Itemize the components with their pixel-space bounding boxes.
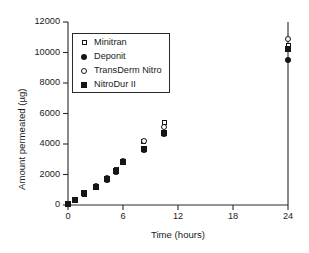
data-point xyxy=(113,168,119,174)
data-point xyxy=(65,201,71,207)
data-point xyxy=(141,138,147,144)
data-point xyxy=(104,176,110,182)
data-point xyxy=(285,36,291,42)
data-point xyxy=(120,159,126,165)
data-point xyxy=(81,190,87,196)
data-point xyxy=(93,184,99,190)
data-point xyxy=(141,146,147,152)
data-point xyxy=(161,130,167,136)
data-points-layer xyxy=(0,0,309,253)
data-point xyxy=(285,57,291,63)
permeation-scatter-chart: 12000 10000 8000 6000 4000 2000 0 0 6 12… xyxy=(0,0,309,253)
data-point xyxy=(285,46,291,52)
data-point xyxy=(72,197,78,203)
